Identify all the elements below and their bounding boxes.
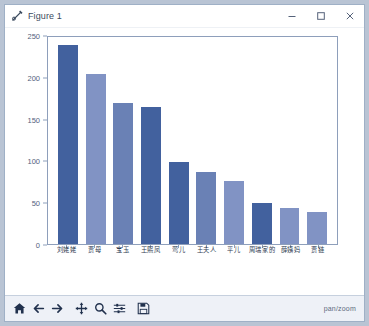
figure-canvas[interactable]: 050100150200250 刘姥姥贾母宝玉王熙凤莺儿王夫人平儿周瑞家的薛姨妈…: [5, 28, 364, 295]
bar-slot: [82, 37, 110, 244]
matplotlib-figure-icon: [11, 10, 23, 22]
x-label-slot: 贾链: [304, 246, 332, 268]
bar-slot: [54, 37, 82, 244]
y-axis: 050100150200250: [5, 36, 47, 245]
x-label-slot: 莺儿: [165, 246, 193, 268]
y-tick-label: 0: [36, 241, 40, 250]
home-button[interactable]: [11, 299, 28, 318]
home-icon: [13, 302, 26, 315]
zoom-magnifier-icon: [94, 302, 107, 315]
back-button[interactable]: [30, 299, 47, 318]
x-tick-label: 王熙凤: [141, 246, 161, 253]
configure-subplots-button[interactable]: [111, 299, 128, 318]
x-label-slot: 贾母: [81, 246, 109, 268]
bar: [224, 181, 244, 244]
x-label-slot: 宝玉: [109, 246, 137, 268]
x-tick-label: 宝玉: [116, 246, 129, 253]
x-tick-label: 薛姨妈: [280, 246, 300, 253]
bar-slot: [248, 37, 276, 244]
y-tick-label: 250: [27, 32, 40, 41]
pan-move-icon: [75, 302, 88, 315]
minimize-button[interactable]: [277, 5, 306, 27]
window-title: Figure 1: [28, 11, 62, 21]
save-floppy-icon: [137, 302, 150, 315]
configure-subplots-icon: [113, 302, 126, 315]
x-label-slot: 刘姥姥: [53, 246, 81, 268]
x-label-slot: 薛姨妈: [276, 246, 304, 268]
x-tick-label: 莺儿: [172, 246, 185, 253]
bar: [280, 208, 300, 244]
forward-arrow-icon: [51, 302, 64, 315]
save-button[interactable]: [135, 299, 152, 318]
y-tick-label: 50: [32, 199, 40, 208]
bar-slot: [165, 37, 193, 244]
close-button[interactable]: [335, 5, 364, 27]
x-tick-label: 贾母: [88, 246, 101, 253]
bar: [113, 103, 133, 244]
bar-slot: [276, 37, 304, 244]
bar: [252, 203, 272, 244]
y-tick-label: 150: [27, 115, 40, 124]
x-tick-label: 贾链: [311, 246, 324, 253]
bar: [169, 162, 189, 244]
bar: [141, 107, 161, 244]
maximize-icon: [316, 11, 326, 21]
x-tick-label: 平儿: [228, 246, 241, 253]
figure-window: Figure 1 050100150200250: [4, 4, 365, 322]
close-icon: [345, 11, 355, 21]
x-tick-label: 周瑞家的: [249, 246, 276, 253]
toolbar-status-text: pan/zoom: [324, 305, 356, 312]
bar: [196, 172, 216, 244]
bar-slot: [303, 37, 331, 244]
y-tick-label: 100: [27, 157, 40, 166]
bar: [58, 45, 78, 244]
plot-axes: [47, 36, 338, 245]
x-tick-label: 刘姥姥: [57, 246, 77, 253]
bar-slot: [137, 37, 165, 244]
navigation-toolbar: pan/zoom: [5, 295, 364, 321]
x-label-slot: 王熙凤: [137, 246, 165, 268]
x-label-slot: 王夫人: [192, 246, 220, 268]
x-axis-labels: 刘姥姥贾母宝玉王熙凤莺儿王夫人平儿周瑞家的薛姨妈贾链: [47, 246, 338, 268]
x-label-slot: 周瑞家的: [248, 246, 276, 268]
window-title-bar: Figure 1: [5, 5, 364, 28]
zoom-button[interactable]: [92, 299, 109, 318]
x-tick-label: 王夫人: [196, 246, 216, 253]
x-label-slot: 平儿: [220, 246, 248, 268]
bar-slot: [193, 37, 221, 244]
minimize-icon: [287, 11, 297, 21]
maximize-button[interactable]: [306, 5, 335, 27]
window-controls: [277, 5, 364, 27]
bar: [86, 74, 106, 244]
y-tick-label: 200: [27, 73, 40, 82]
bar-slot: [109, 37, 137, 244]
bar: [307, 212, 327, 244]
back-arrow-icon: [32, 302, 45, 315]
bar-slot: [220, 37, 248, 244]
bars-container: [48, 37, 337, 244]
forward-button[interactable]: [49, 299, 66, 318]
pan-button[interactable]: [73, 299, 90, 318]
